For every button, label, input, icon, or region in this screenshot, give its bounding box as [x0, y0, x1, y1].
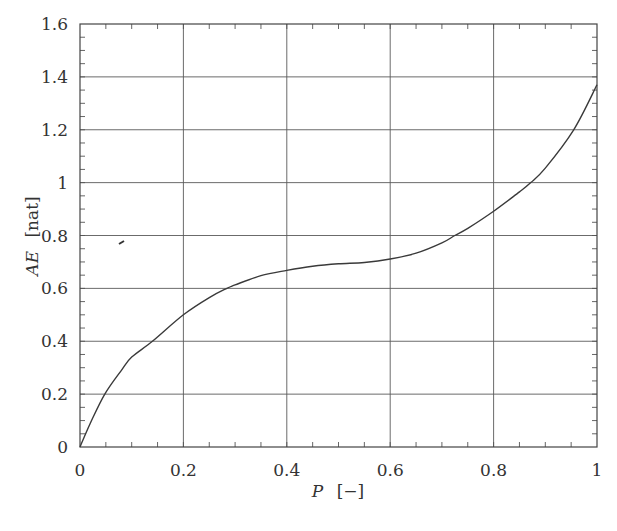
y-tick-label: 0.8 [41, 226, 68, 246]
y-tick-label: 0 [57, 437, 68, 457]
x-tick-label: 1 [592, 460, 603, 480]
x-tick-labels: 00.20.40.60.81 [75, 460, 603, 480]
y-axis-label: AE [nat] [22, 196, 42, 277]
y-tick-label: 1.2 [41, 120, 68, 140]
y-tick-labels: 00.20.40.60.811.21.41.6 [41, 14, 68, 457]
ae-curve [80, 85, 597, 447]
y-tick-label: 1 [57, 173, 68, 193]
x-axis-unit: [−] [337, 481, 365, 501]
y-tick-label: 1.4 [41, 67, 68, 87]
x-tick-label: 0.6 [377, 460, 404, 480]
y-tick-label: 0.2 [41, 384, 68, 404]
line-chart: 00.20.40.60.81 00.20.40.60.811.21.41.6 P… [0, 0, 617, 531]
y-axis-variable: AE [22, 250, 42, 277]
y-axis-unit: [nat] [22, 196, 42, 237]
x-tick-label: 0.4 [273, 460, 300, 480]
x-tick-label: 0.2 [170, 460, 197, 480]
y-tick-label: 0.6 [41, 278, 68, 298]
y-tick-label: 1.6 [41, 14, 68, 34]
y-tick-label: 0.4 [41, 331, 68, 351]
x-axis-variable: P [311, 481, 324, 501]
grid-lines [80, 24, 597, 447]
stray-mark [119, 241, 124, 244]
x-tick-label: 0.8 [480, 460, 507, 480]
x-axis-label: P [−] [311, 481, 364, 501]
x-tick-label: 0 [75, 460, 86, 480]
